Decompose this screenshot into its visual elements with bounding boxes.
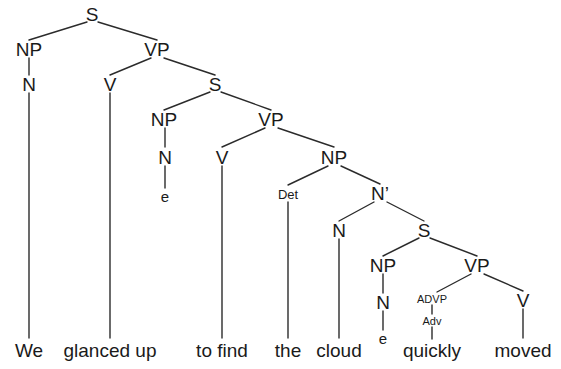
tree-node-adv1: Adv xyxy=(423,316,442,327)
tree-edge-np3-to-nbar1 xyxy=(341,166,380,184)
tree-node-n1: N xyxy=(22,75,36,94)
tree-node-vp3: VP xyxy=(464,256,489,275)
tree-edge-s3-to-vp3 xyxy=(430,238,477,256)
tree-node-s3: S xyxy=(418,221,431,240)
tree-edge-s1-to-vp1 xyxy=(98,22,157,40)
tree-edge-vp2-to-np3 xyxy=(278,128,334,147)
tree-node-s2: S xyxy=(209,75,222,94)
tree-edges-layer xyxy=(0,0,561,369)
tree-leaf-word-the: the xyxy=(275,341,301,360)
tree-node-vp1: VP xyxy=(144,40,169,59)
tree-edge-vp1-to-s2 xyxy=(164,58,215,75)
tree-edge-np3-to-det1 xyxy=(288,166,328,185)
tree-node-n4: N xyxy=(376,293,390,312)
tree-leaf-word-moved: moved xyxy=(494,341,551,360)
tree-node-np1: NP xyxy=(16,40,42,59)
tree-node-advp1: ADVP xyxy=(417,294,447,305)
tree-node-n3: N xyxy=(332,221,346,240)
tree-edge-vp3-to-advp1 xyxy=(437,274,471,292)
tree-edge-s1-to-np1 xyxy=(29,22,87,40)
tree-node-n2: N xyxy=(158,148,172,167)
tree-edge-vp3-to-v3 xyxy=(484,274,523,291)
tree-edge-vp1-to-v1 xyxy=(110,58,151,75)
tree-node-np3: NP xyxy=(321,148,347,167)
tree-node-v2: V xyxy=(216,148,229,167)
tree-leaf-word-to-find: to find xyxy=(196,341,248,360)
tree-edge-vp2-to-v2 xyxy=(222,128,265,147)
tree-node-np4: NP xyxy=(370,256,396,275)
tree-node-s1: S xyxy=(86,5,99,24)
tree-node-nbar1: N’ xyxy=(371,184,389,203)
tree-node-vp2: VP xyxy=(258,110,283,129)
syntax-tree-diagram: SNPVPNVSNPVPNeVNPDetN’NSNPVPNeADVPAdvVWe… xyxy=(0,0,561,369)
tree-node-e1: e xyxy=(161,189,169,204)
tree-node-e2: e xyxy=(379,331,387,346)
tree-edge-nbar1-to-s3 xyxy=(387,202,424,221)
tree-node-np2: NP xyxy=(151,110,177,129)
tree-node-det1: Det xyxy=(278,188,298,201)
tree-node-v3: V xyxy=(517,291,530,310)
tree-edge-s2-to-np2 xyxy=(164,92,210,110)
tree-edge-nbar1-to-n3 xyxy=(339,202,374,221)
tree-leaf-word-cloud: cloud xyxy=(316,341,361,360)
tree-edge-s3-to-np4 xyxy=(383,238,419,256)
tree-edge-s2-to-vp2 xyxy=(221,92,271,110)
tree-leaf-word-quickly: quickly xyxy=(403,341,461,360)
tree-leaf-word-we: We xyxy=(15,341,43,360)
tree-leaf-word-glanced-up: glanced up xyxy=(64,341,157,360)
tree-node-v1: V xyxy=(104,75,117,94)
